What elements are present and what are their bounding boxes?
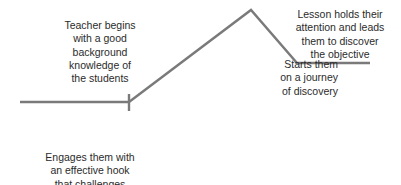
label-journey-of-discovery: Starts them on a journey of discovery — [248, 58, 338, 98]
label-teacher-background: Teacher begins with a good background kn… — [30, 19, 170, 85]
label-lesson-objective: Lesson holds their attention and leads t… — [280, 8, 400, 61]
label-engaging-hook: Engages them with an effective hook that… — [20, 151, 160, 185]
